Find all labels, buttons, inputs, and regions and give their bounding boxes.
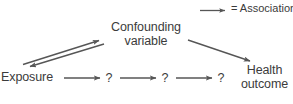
- edge-exposure-to-confounding: [23, 41, 99, 65]
- node-unknown-2: ?: [160, 71, 170, 85]
- figure-canvas: Confounding variable Exposure Health out…: [0, 0, 293, 104]
- legend-label: = Association: [231, 2, 293, 14]
- node-unknown-1: ?: [104, 71, 114, 85]
- node-confounding-variable: Confounding variable: [104, 21, 188, 48]
- node-health-outcome: Health outcome: [236, 64, 293, 91]
- edge-confounding-to-health: [188, 40, 250, 61]
- node-exposure: Exposure: [1, 71, 59, 85]
- node-unknown-3: ?: [216, 71, 226, 85]
- edge-confounding-to-exposure: [30, 44, 104, 67]
